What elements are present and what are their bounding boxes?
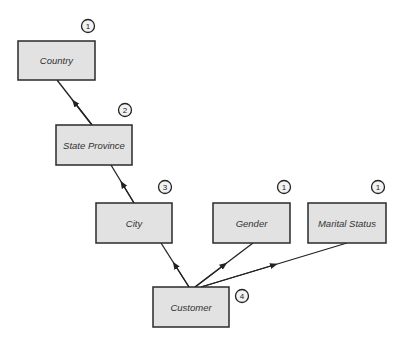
- level-number: 3: [163, 183, 168, 192]
- node-gender: Gender: [213, 203, 290, 243]
- level-badge: 1: [278, 181, 291, 194]
- arrow-icon: [123, 184, 135, 203]
- level-number: 2: [123, 106, 128, 115]
- node-marital-status: Marital Status: [308, 203, 386, 243]
- edge-customer-to-marital_status: [201, 243, 347, 287]
- level-number: 1: [376, 183, 381, 192]
- level-badge: 4: [236, 290, 249, 303]
- level-badge: 1: [372, 181, 385, 194]
- node-label: Customer: [170, 302, 212, 313]
- level-number: 1: [282, 183, 287, 192]
- node-label: Marital Status: [318, 218, 376, 229]
- level-number: 1: [86, 22, 91, 31]
- hierarchy-diagram: Country1State Province2City3Gender1Marit…: [0, 0, 402, 343]
- node-country: Country: [18, 41, 95, 80]
- level-badge: 3: [159, 181, 172, 194]
- node-city: City: [96, 203, 172, 243]
- arrow-icon: [175, 265, 189, 287]
- edge-customer-to-city: [161, 243, 189, 287]
- node-state-province: State Province: [56, 125, 132, 165]
- node-label: Country: [40, 55, 75, 66]
- arrow-icon: [75, 103, 93, 126]
- level-badge: 1: [82, 20, 95, 33]
- node-label: City: [126, 218, 144, 229]
- node-label: State Province: [63, 140, 125, 151]
- arrow-icon: [201, 265, 274, 287]
- edge-state_province-to-country: [57, 80, 92, 125]
- node-label: Gender: [236, 218, 269, 229]
- edge-city-to-state_province: [111, 165, 134, 203]
- level-number: 4: [240, 292, 245, 301]
- level-badge: 2: [119, 104, 132, 117]
- node-customer: Customer: [153, 287, 229, 327]
- arrow-icon: [195, 265, 224, 287]
